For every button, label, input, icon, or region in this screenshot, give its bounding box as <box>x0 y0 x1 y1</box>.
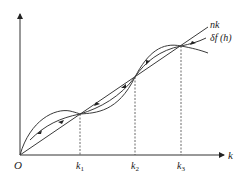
nk-label: nk <box>210 19 220 30</box>
path-curve-1 <box>30 114 80 140</box>
k2-label: k2 <box>131 160 139 173</box>
arrow-icon <box>190 41 196 45</box>
solow-diagram: O k nk δf (h) k1 k2 k3 <box>0 0 241 179</box>
path-curve-3 <box>135 38 206 77</box>
k3-label: k3 <box>177 160 185 173</box>
origin-label: O <box>14 159 22 171</box>
k1-label: k1 <box>76 160 84 173</box>
x-axis-label: k <box>228 149 234 161</box>
sf-curve <box>20 45 208 155</box>
sf-label: δf (h) <box>210 32 232 44</box>
